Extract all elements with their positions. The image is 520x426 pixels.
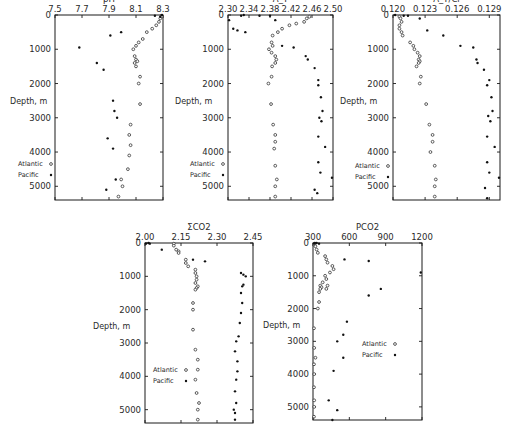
y-tick-label: 4000 [202,147,224,157]
atlantic-point [433,195,436,198]
pacific-point [237,335,239,337]
y-axis-label: Depth, m [10,97,47,106]
pacific-point [488,79,490,81]
legend-open-circle-icon [222,163,225,166]
atlantic-point [318,291,321,294]
atlantic-point [314,245,317,248]
pacific-point [116,117,118,119]
atlantic-point [129,123,132,126]
axis-frame [313,243,422,420]
atlantic-point [128,154,131,157]
atlantic-point [325,258,328,261]
atlantic-point [313,399,316,402]
pacific-point [292,46,294,48]
pacific-point [319,171,321,173]
atlantic-point [417,62,420,65]
atlantic-point [331,265,334,268]
atlantic-point [145,31,148,34]
atlantic-point [196,418,199,421]
axis-frame [55,15,163,200]
atlantic-point [313,327,316,330]
atlantic-point [268,48,271,51]
y-tick-label: 4000 [29,147,51,157]
panel-title: pH [103,0,115,4]
y-tick-label: 5000 [29,181,51,191]
x-tick-label: 7.9 [102,4,116,14]
legend-open-circle-icon [185,369,188,372]
atlantic-point [137,82,140,85]
y-tick-label: 5000 [367,181,389,191]
pacific-point [342,357,344,359]
atlantic-point [128,134,131,137]
pacific-point [120,31,122,33]
y-tick-label: 5000 [202,181,224,191]
pacific-point [234,412,236,414]
pacific-point [486,161,488,163]
atlantic-point [425,103,428,106]
atlantic-point [195,275,198,278]
atlantic-point [416,51,419,54]
pacific-point [236,360,238,362]
y-tick-label: 1000 [287,271,309,281]
atlantic-point [409,41,412,44]
y-tick-label: 3000 [287,336,309,346]
y-tick-label: 0 [219,10,224,20]
pacific-point [204,260,206,262]
pacific-point [234,418,236,420]
atlantic-point [271,44,274,47]
legend-filled-circle-icon [222,174,224,176]
atlantic-point [274,62,277,65]
atlantic-point [281,27,284,30]
pacific-point [240,14,242,16]
y-axis-label: Depth, m [93,322,130,331]
y-tick-label: 2000 [287,304,309,314]
y-tick-label: 2000 [367,79,389,89]
atlantic-point [267,82,270,85]
atlantic-point [398,24,401,27]
legend-open-circle-icon [50,163,53,166]
panel-0: 7.57.77.98.18.3pH010002000300040005000De… [10,0,170,200]
atlantic-point [133,62,136,65]
pacific-point [274,19,276,21]
pacific-point [486,135,488,137]
x-tick-label: 2.45 [244,232,263,242]
atlantic-point [316,307,319,310]
atlantic-point [133,55,136,58]
y-tick-label: 1000 [29,44,51,54]
atlantic-point [433,164,436,167]
x-tick-label: 1200 [411,232,433,242]
atlantic-point [412,44,415,47]
atlantic-point [271,34,274,37]
pacific-point [149,242,151,244]
legend-pacific: Pacific [18,171,39,179]
y-tick-label: 4000 [367,147,389,157]
atlantic-point [194,348,197,351]
atlantic-point [121,185,124,188]
x-tick-label: 2.42 [282,4,301,14]
atlantic-point [329,271,332,274]
y-tick-label: 1000 [367,44,389,54]
pacific-point [236,370,238,372]
pacific-point [244,31,246,33]
atlantic-point [195,392,198,395]
legend-filled-circle-icon [387,176,389,178]
atlantic-point [137,41,140,44]
panel-title: A_T [273,0,289,4]
x-tick-label: 0.123 [413,4,437,14]
atlantic-point [271,65,274,68]
pacific-point [240,312,242,314]
pacific-point [102,69,104,71]
x-tick-label: 2.30 [208,232,227,242]
atlantic-point [305,17,308,20]
atlantic-point [270,75,273,78]
atlantic-point [274,134,277,137]
atlantic-point [196,408,199,411]
y-tick-label: 3000 [29,113,51,123]
pacific-point [368,260,370,262]
pacific-point [336,409,338,411]
atlantic-point [419,75,422,78]
atlantic-point [433,185,436,188]
pacific-point [235,340,237,342]
x-tick-label: 600 [341,232,357,242]
atlantic-point [270,41,273,44]
